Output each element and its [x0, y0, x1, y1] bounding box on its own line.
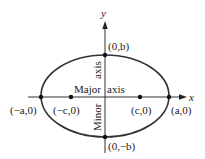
point-focus-left — [69, 95, 73, 99]
point-vertex-left — [39, 95, 43, 99]
point-focus-right — [138, 95, 142, 99]
label-co-vertex-top: (0,b) — [108, 40, 129, 53]
y-axis-arrow-icon — [102, 21, 107, 29]
major-word: Major — [74, 83, 101, 95]
label-vertex-right: (a,0) — [171, 104, 192, 117]
ellipse-diagram: x y (−a,0) (−c,0) (c,0) (a,0) (0,b) (0,−… — [0, 0, 205, 159]
label-focus-right: (c,0) — [131, 104, 152, 117]
label-co-vertex-bottom: (0,−b) — [108, 140, 136, 153]
point-vertex-right — [167, 95, 171, 99]
minor-axis-word: axis — [91, 61, 103, 79]
x-axis-label: x — [188, 91, 194, 103]
label-focus-left: (−c,0) — [53, 104, 80, 117]
major-axis-word: axis — [107, 83, 125, 95]
ellipse-figure: x y (−a,0) (−c,0) (c,0) (a,0) (0,b) (0,−… — [0, 0, 205, 159]
x-axis-arrow-icon — [179, 94, 187, 99]
point-co-vertex-top — [103, 53, 107, 57]
point-co-vertex-bottom — [103, 135, 107, 139]
label-vertex-left: (−a,0) — [10, 104, 37, 117]
y-axis-label: y — [100, 7, 106, 19]
minor-word: Minor — [91, 103, 103, 131]
